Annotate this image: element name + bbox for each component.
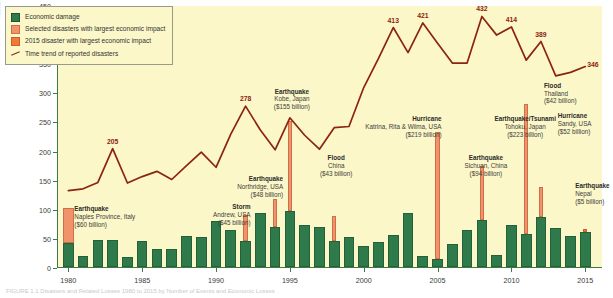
x-tick-label: 1995 <box>282 276 298 285</box>
disaster-annotation: FloodThailand($42 billion) <box>544 82 577 106</box>
y-tick-label: 0 <box>25 264 51 273</box>
x-tick-mark <box>142 268 143 272</box>
annotation-title: Storm <box>213 203 250 211</box>
annotation-location: Tohoku, Japan <box>505 123 546 130</box>
disaster-annotation: EarthquakeNaples Province, Italy($60 bil… <box>74 205 135 229</box>
x-tick-label: 2010 <box>503 276 519 285</box>
legend-item: Economic damage <box>11 11 165 23</box>
y-tick-mark <box>53 152 57 153</box>
annotation-title: Hurricane <box>558 112 592 120</box>
annotation-location: Sichuan, China <box>465 162 508 169</box>
annotation-title: Earthquake <box>465 154 508 162</box>
x-tick-label: 2000 <box>356 276 372 285</box>
annotation-title: Earthquake/Tsunami <box>494 115 555 123</box>
annotation-location: Andrew, USA <box>213 211 250 218</box>
y-tick-label: 150 <box>25 176 51 185</box>
y-axis-label: Number of disasters / Economic damage in… <box>0 0 1 18</box>
trend-value-label: 432 <box>476 5 487 12</box>
figure-caption: FIGURE 1.1 Disasters and Related Losses … <box>6 288 606 294</box>
annotation-amount: ($219 billion) <box>406 131 442 138</box>
disaster-annotation: EarthquakeNorthridge, USA($48 billion) <box>237 175 283 199</box>
figure-container: Number of disasters / Economic damage in… <box>0 0 613 298</box>
x-tick-mark <box>290 268 291 272</box>
y-tick-label: 250 <box>25 118 51 127</box>
disaster-annotation: EarthquakeNepal($5 billion) <box>575 182 609 206</box>
disaster-annotation: StormAndrew, USA($45 billion) <box>213 203 250 227</box>
legend-swatch-economic-damage-icon <box>11 13 20 22</box>
annotation-amount: ($155 billion) <box>274 103 310 110</box>
annotation-amount: ($223 billion) <box>507 131 543 138</box>
y-tick-mark <box>53 210 57 211</box>
trend-value-label: 205 <box>107 138 118 145</box>
trend-value-label: 413 <box>388 17 399 24</box>
x-tick-mark <box>511 268 512 272</box>
annotation-location: China <box>328 162 344 169</box>
annotation-title: Earthquake <box>237 175 283 183</box>
chart-legend: Economic damage Selected disasters with … <box>5 6 173 65</box>
annotation-amount: ($52 billion) <box>558 128 591 135</box>
y-tick-mark <box>53 122 57 123</box>
legend-swatch-trend-line-icon <box>11 50 20 57</box>
annotation-title: Earthquake <box>274 88 310 96</box>
trend-value-label: 346 <box>587 61 598 68</box>
disaster-annotation: EarthquakeKobe, Japan($155 billion) <box>274 88 310 112</box>
x-tick-mark <box>68 268 69 272</box>
annotation-amount: ($45 billion) <box>218 219 251 226</box>
annotation-location: Nepal <box>575 190 591 197</box>
legend-swatch-selected-disasters-icon <box>11 25 20 34</box>
disaster-annotation: HurricaneSandy, USA($52 billion) <box>558 112 592 136</box>
disaster-annotation: Earthquake/TsunamiTohoku, Japan($223 bil… <box>494 115 555 139</box>
annotation-amount: ($42 billion) <box>544 97 577 104</box>
annotation-title: Earthquake <box>74 205 135 213</box>
annotation-title: Flood <box>320 154 353 162</box>
x-tick-label: 2005 <box>430 276 446 285</box>
annotation-location: Naples Province, Italy <box>74 213 135 220</box>
y-tick-label: 200 <box>25 147 51 156</box>
x-tick-label: 1990 <box>208 276 224 285</box>
x-tick-label: 2015 <box>577 276 593 285</box>
y-tick-label: 50 <box>25 234 51 243</box>
x-tick-mark <box>438 268 439 272</box>
legend-item: Time trend of reported disasters <box>11 48 165 60</box>
x-tick-mark <box>364 268 365 272</box>
disaster-annotation: HurricaneKatrina, Rita & Wilma, USA($219… <box>365 115 441 139</box>
trend-value-label: 278 <box>240 95 251 102</box>
annotation-location: Katrina, Rita & Wilma, USA <box>365 123 441 130</box>
x-tick-mark <box>216 268 217 272</box>
legend-label: Time trend of reported disasters <box>25 48 118 60</box>
x-tick-label: 1980 <box>60 276 76 285</box>
legend-label: 2015 disaster with largest economic impa… <box>25 35 151 47</box>
x-tick-mark <box>585 268 586 272</box>
annotation-title: Flood <box>544 82 577 90</box>
trend-value-label: 389 <box>535 31 546 38</box>
annotation-location: Sandy, USA <box>558 120 592 127</box>
trend-value-label: 414 <box>506 16 517 23</box>
annotation-title: Earthquake <box>575 182 609 190</box>
legend-label: Economic damage <box>25 11 80 23</box>
annotation-title: Hurricane <box>365 115 441 123</box>
legend-item: Selected disasters with largest economic… <box>11 23 165 35</box>
y-tick-label: 100 <box>25 205 51 214</box>
legend-item: 2015 disaster with largest economic impa… <box>11 35 165 47</box>
disaster-annotation: FloodChina($43 billion) <box>320 154 353 178</box>
annotation-location: Thailand <box>544 90 568 97</box>
y-tick-mark <box>53 239 57 240</box>
annotation-location: Kobe, Japan <box>274 95 309 102</box>
x-tick-label: 1985 <box>134 276 150 285</box>
y-tick-mark <box>53 268 57 269</box>
annotation-amount: ($48 billion) <box>251 191 284 198</box>
annotation-amount: ($94 billion) <box>470 170 503 177</box>
disaster-annotation: EarthquakeSichuan, China($94 billion) <box>465 154 508 178</box>
annotation-amount: ($43 billion) <box>320 170 353 177</box>
legend-label: Selected disasters with largest economic… <box>25 23 165 35</box>
y-tick-label: 300 <box>25 89 51 98</box>
legend-swatch-2015-disaster-icon <box>11 37 20 46</box>
annotation-amount: ($60 billion) <box>74 221 107 228</box>
annotation-amount: ($5 billion) <box>575 198 604 205</box>
y-tick-mark <box>53 181 57 182</box>
trend-value-label: 421 <box>417 12 428 19</box>
annotation-location: Northridge, USA <box>237 183 283 190</box>
y-tick-mark <box>53 93 57 94</box>
